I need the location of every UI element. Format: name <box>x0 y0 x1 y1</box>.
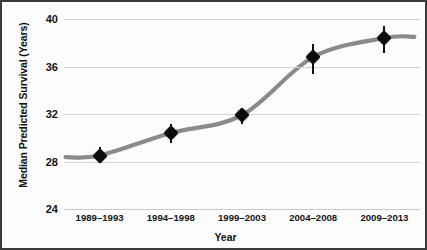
plot-area: 24283236401989–19931994–19981999–2003200… <box>64 19 420 209</box>
gridline-28 <box>64 162 420 163</box>
y-axis-title: Median Predicted Survival (Years) <box>17 10 29 200</box>
gridline-36 <box>64 67 420 68</box>
gridline-40 <box>64 19 420 20</box>
y-tick-label: 36 <box>46 61 58 73</box>
gridline-24 <box>64 209 420 210</box>
x-tick-label: 2009–2013 <box>360 212 408 223</box>
x-tick-label: 1994–1998 <box>147 212 195 223</box>
x-axis-title: Year <box>36 231 415 243</box>
y-tick-label: 24 <box>46 203 58 215</box>
y-tick-label: 28 <box>46 156 58 168</box>
x-tick-label: 1999–2003 <box>218 212 266 223</box>
y-tick-label: 40 <box>46 13 58 25</box>
y-tick-label: 32 <box>46 108 58 120</box>
chart-inner-frame: Median Predicted Survival (Years) 242832… <box>6 6 421 244</box>
x-tick-label: 1989–1993 <box>76 212 124 223</box>
x-tick-label: 2004–2008 <box>289 212 337 223</box>
chart-figure: Median Predicted Survival (Years) 242832… <box>0 0 427 250</box>
